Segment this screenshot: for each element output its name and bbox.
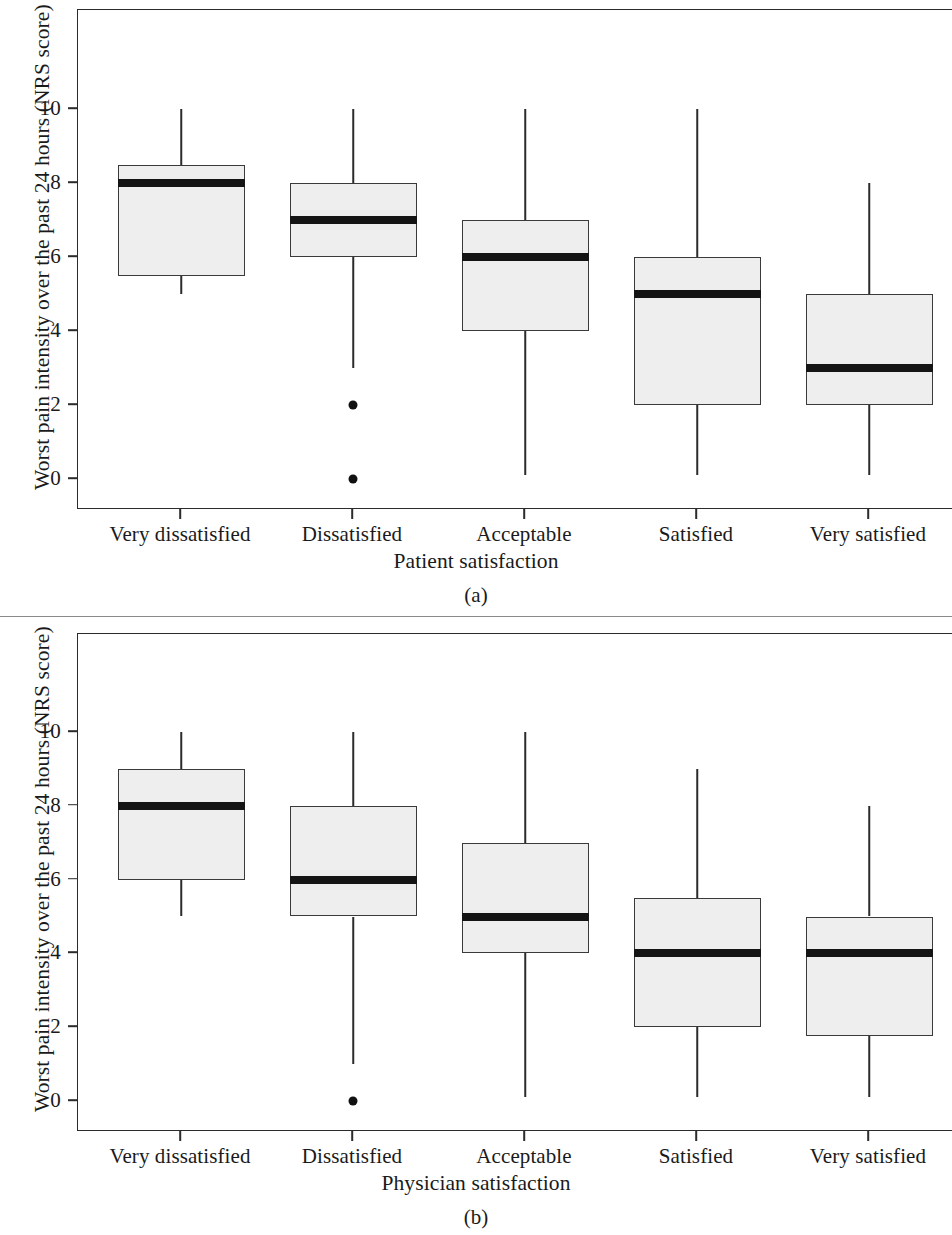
x-tick-mark	[695, 1131, 697, 1141]
box-whisker-lower	[696, 1027, 698, 1097]
box-whisker-upper	[696, 769, 698, 898]
x-tick-label: Acceptable	[476, 522, 571, 547]
x-tick-mark	[523, 1131, 525, 1141]
box-whisker-lower	[524, 953, 526, 1097]
panel-b: 0246810 Very dissatisfiedDissatisfiedAcc…	[0, 620, 952, 1235]
x-tick-mark	[179, 509, 181, 519]
box-median-line	[806, 364, 933, 372]
y-tick-mark	[68, 477, 77, 479]
x-tick-mark	[867, 509, 869, 519]
y-tick-mark	[68, 329, 77, 331]
x-tick-mark	[351, 509, 353, 519]
y-axis-title-a: Worst pain intensity over the past 24 ho…	[30, 4, 55, 490]
y-axis-title-b: Worst pain intensity over the past 24 ho…	[30, 626, 55, 1112]
y-tick-mark	[68, 1025, 77, 1027]
box-whisker-upper	[352, 109, 354, 183]
x-axis-title-b: Physician satisfaction	[0, 1171, 952, 1196]
boxplot-figure: 0246810 Very dissatisfiedDissatisfiedAcc…	[0, 0, 952, 1235]
box-median-line	[462, 913, 589, 921]
panel-caption-b: (b)	[0, 1205, 952, 1230]
box-median-line	[634, 949, 761, 957]
box-whisker-upper	[180, 109, 182, 165]
x-tick-label: Dissatisfied	[302, 1144, 402, 1169]
box-whisker-upper	[180, 732, 182, 769]
box-plot-box	[462, 843, 589, 954]
box-median-line	[634, 290, 761, 298]
box-whisker-upper	[868, 806, 870, 917]
box-outlier-point	[349, 475, 358, 484]
plot-area-a	[78, 10, 952, 508]
box-median-line	[118, 179, 245, 187]
box-whisker-lower	[696, 405, 698, 475]
box-median-line	[290, 876, 417, 884]
panel-a: 0246810 Very dissatisfiedDissatisfiedAcc…	[0, 0, 952, 610]
x-tick-label: Very satisfied	[810, 1144, 926, 1169]
x-axis-title-a: Patient satisfaction	[0, 549, 952, 574]
y-tick-mark	[68, 1099, 77, 1101]
x-tick-label: Acceptable	[476, 1144, 571, 1169]
box-whisker-lower	[180, 880, 182, 917]
plot-frame-a	[77, 9, 952, 509]
box-plot-box	[634, 257, 761, 405]
panel-caption-a: (a)	[0, 583, 952, 608]
box-whisker-lower	[524, 331, 526, 475]
x-tick-label: Very dissatisfied	[109, 1144, 250, 1169]
box-outlier-point	[349, 1097, 358, 1106]
y-tick-mark	[68, 181, 77, 183]
x-tick-mark	[523, 509, 525, 519]
box-whisker-lower	[868, 1036, 870, 1097]
box-outlier-point	[349, 401, 358, 410]
box-median-line	[806, 949, 933, 957]
panel-divider	[0, 616, 952, 617]
box-median-line	[118, 802, 245, 810]
x-tick-label: Dissatisfied	[302, 522, 402, 547]
box-whisker-upper	[524, 109, 526, 220]
y-tick-mark	[68, 403, 77, 405]
box-plot-box	[806, 294, 933, 405]
x-tick-label: Very dissatisfied	[109, 522, 250, 547]
x-tick-label: Satisfied	[659, 522, 733, 547]
box-plot-box	[806, 917, 933, 1037]
box-plot-box	[118, 769, 245, 880]
plot-area-b	[78, 634, 952, 1130]
box-median-line	[462, 253, 589, 261]
x-tick-label: Satisfied	[659, 1144, 733, 1169]
y-tick-mark	[68, 730, 77, 732]
box-plot-box	[290, 806, 417, 917]
y-tick-mark	[68, 952, 77, 954]
box-plot-box	[634, 898, 761, 1027]
box-whisker-upper	[352, 732, 354, 806]
box-whisker-lower	[352, 917, 354, 1065]
x-tick-mark	[695, 509, 697, 519]
y-tick-mark	[68, 804, 77, 806]
box-whisker-lower	[868, 405, 870, 475]
box-whisker-upper	[524, 732, 526, 843]
y-tick-mark	[68, 107, 77, 109]
y-tick-mark	[68, 878, 77, 880]
box-whisker-upper	[868, 183, 870, 294]
box-plot-box	[462, 220, 589, 331]
box-whisker-upper	[696, 109, 698, 257]
x-tick-mark	[867, 1131, 869, 1141]
y-tick-mark	[68, 255, 77, 257]
x-tick-mark	[179, 1131, 181, 1141]
x-tick-label: Very satisfied	[810, 522, 926, 547]
plot-frame-b	[77, 633, 952, 1131]
box-whisker-lower	[180, 276, 182, 295]
box-median-line	[290, 216, 417, 224]
box-whisker-lower	[352, 257, 354, 368]
x-tick-mark	[351, 1131, 353, 1141]
